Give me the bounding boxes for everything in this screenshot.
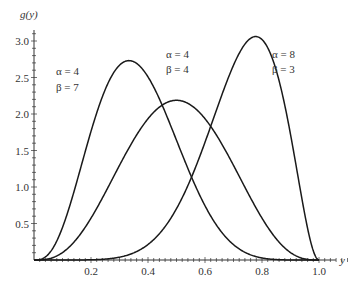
svg-text:α = 8: α = 8 [272,48,295,60]
svg-text:β = 4: β = 4 [166,63,189,75]
svg-text:α = 4: α = 4 [56,65,79,77]
x-tick-label: 0.2 [84,265,98,277]
x-tick-label: 0.8 [255,265,269,277]
x-tick-label: 1.0 [312,265,326,277]
x-tick-label: 0.6 [198,265,212,277]
svg-text:α = 4: α = 4 [166,48,189,60]
annotation-a8-b3: α = 8 β = 3 [272,48,295,75]
annotation-a4-b4: α = 4 β = 4 [166,48,189,75]
annotation-a4-b7: α = 4 β = 7 [56,65,79,93]
x-tick-label: 0.4 [141,265,155,277]
svg-text:β = 3: β = 3 [272,63,295,75]
y-axis-title: g(y) [20,8,38,21]
x-axis-title: y [339,254,345,266]
y-tick-label: 2.5 [15,72,29,84]
beta-density-chart: 0.20.40.60.81.00.51.01.52.02.53.0 g(y) y… [0,0,357,286]
y-tick-label: 1.0 [15,181,29,193]
y-tick-label: 0.5 [15,218,29,230]
svg-text:β = 7: β = 7 [56,81,79,93]
y-tick-label: 3.0 [15,35,29,47]
y-tick-label: 1.5 [15,145,29,157]
y-tick-label: 2.0 [15,108,29,120]
